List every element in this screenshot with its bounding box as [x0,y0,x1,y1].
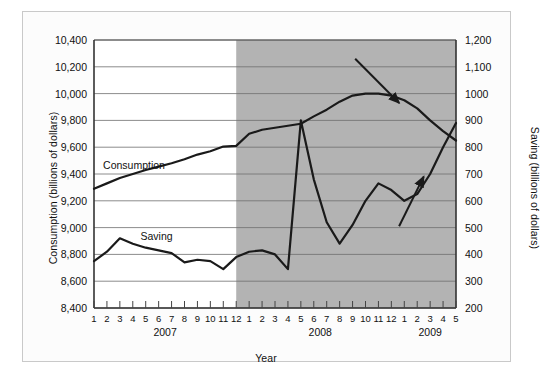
y-axis-left-tick-label: 10,000 [55,88,87,100]
x-axis-tick-label: 12 [386,313,397,324]
x-axis-tick-label: 6 [311,313,316,324]
y-axis-right-tick-label: 700 [465,168,483,180]
x-axis-tick-label: 8 [182,313,187,324]
x-axis-tick-label: 3 [427,313,432,324]
series-label-saving: Saving [141,230,173,242]
x-axis-group-label: 2009 [418,326,442,338]
x-axis-tick-label: 2 [104,313,109,324]
y-axis-left-tick-label: 10,200 [55,61,87,73]
x-axis-tick-label: 4 [285,313,290,324]
x-axis-tick-label: 7 [169,313,174,324]
y-axis-left-tick-label: 9,800 [61,114,87,126]
y-axis-left-tick-label: 9,000 [61,222,87,234]
x-axis-tick-label: 3 [272,313,277,324]
x-axis-tick-label: 1 [402,313,407,324]
x-axis-tick-label: 9 [350,313,355,324]
y-axis-left-tick-label: 8,400 [61,302,87,314]
figure-frame: 8,4008,6008,8009,0009,2009,4009,6009,800… [22,11,511,362]
x-axis-title: Year [0,352,532,364]
x-axis-group-label: 2007 [153,326,177,338]
series-label-consumption: Consumption [103,159,165,171]
x-axis-tick-label: 11 [373,313,383,324]
x-axis-tick-label: 6 [156,313,161,324]
x-axis-tick-label: 1 [91,313,96,324]
x-axis-tick-label: 9 [195,313,200,324]
x-axis-tick-label: 11 [218,313,228,324]
y-axis-left-title: Consumption (billions of dollars) [47,88,59,288]
y-axis-left-tick-label: 8,800 [61,248,87,260]
y-axis-left-tick-label: 9,200 [61,195,87,207]
x-axis-tick-label: 12 [231,313,242,324]
x-axis-tick-label: 1 [246,313,251,324]
x-axis-tick-label: 3 [117,313,122,324]
y-axis-left-tick-label: 10,400 [55,34,87,46]
y-axis-right-tick-label: 1,100 [465,61,491,73]
y-axis-left-tick-label: 9,600 [61,141,87,153]
x-axis-tick-label: 5 [143,313,148,324]
x-axis-tick-label: 2 [259,313,264,324]
x-axis-group-label: 2008 [309,326,333,338]
y-axis-right-tick-label: 300 [465,275,483,287]
y-axis-left-tick-label: 8,600 [61,275,87,287]
y-axis-left-tick-label: 9,400 [61,168,87,180]
y-axis-right-tick-label: 200 [465,302,483,314]
x-axis-tick-label: 4 [130,313,135,324]
y-axis-right-title: Saving (billions of dollars) [529,88,541,288]
x-axis-tick-label: 5 [453,313,458,324]
y-axis-right-tick-label: 1000 [465,88,489,100]
x-axis-tick-label: 2 [415,313,420,324]
y-axis-right-tick-label: 500 [465,222,483,234]
x-axis-tick-label: 10 [205,313,216,324]
y-axis-right-tick-label: 900 [465,114,483,126]
line-chart-svg: 8,4008,6008,8009,0009,2009,4009,6009,800… [23,12,510,361]
y-axis-right-tick-label: 600 [465,195,483,207]
x-axis-tick-label: 7 [324,313,329,324]
x-axis-tick-label: 10 [360,313,371,324]
y-axis-right-tick-label: 800 [465,141,483,153]
x-axis-tick-label: 5 [298,313,303,324]
y-axis-right-tick-label: 400 [465,248,483,260]
x-axis-tick-label: 4 [440,313,445,324]
y-axis-right-tick-label: 1,200 [465,34,491,46]
x-axis-tick-label: 8 [337,313,342,324]
